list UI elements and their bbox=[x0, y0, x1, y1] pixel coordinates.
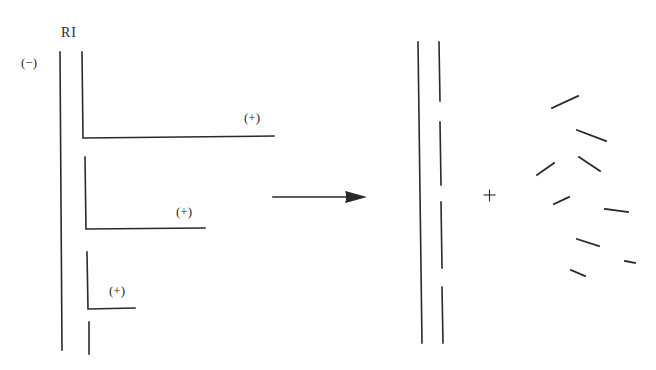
plus-strand-label-2: (+) bbox=[176, 205, 192, 218]
minus-strand-label: (−) bbox=[21, 56, 37, 69]
duplex-minus-strand bbox=[418, 42, 422, 343]
diagram-svg bbox=[0, 0, 656, 370]
ri-minus-strand bbox=[60, 52, 62, 350]
plus-strand-label-1: (+) bbox=[244, 111, 260, 124]
free-strand-fragments bbox=[537, 96, 635, 276]
ri-plus-strand-3 bbox=[87, 252, 135, 309]
plus-icon bbox=[484, 190, 495, 201]
ri-plus-strand-1 bbox=[82, 52, 274, 138]
plus-strand-label-3: (+) bbox=[109, 284, 125, 297]
ri-label: RI bbox=[61, 26, 77, 40]
duplex-plus-strand-segments bbox=[439, 42, 443, 343]
arrow-icon bbox=[273, 192, 364, 202]
replication-diagram: RI (−) (+) (+) (+) bbox=[0, 0, 656, 370]
